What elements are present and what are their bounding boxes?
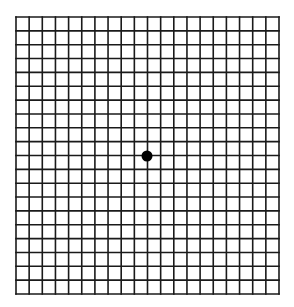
fixation-dot: [142, 151, 153, 162]
amsler-grid: [0, 0, 294, 307]
